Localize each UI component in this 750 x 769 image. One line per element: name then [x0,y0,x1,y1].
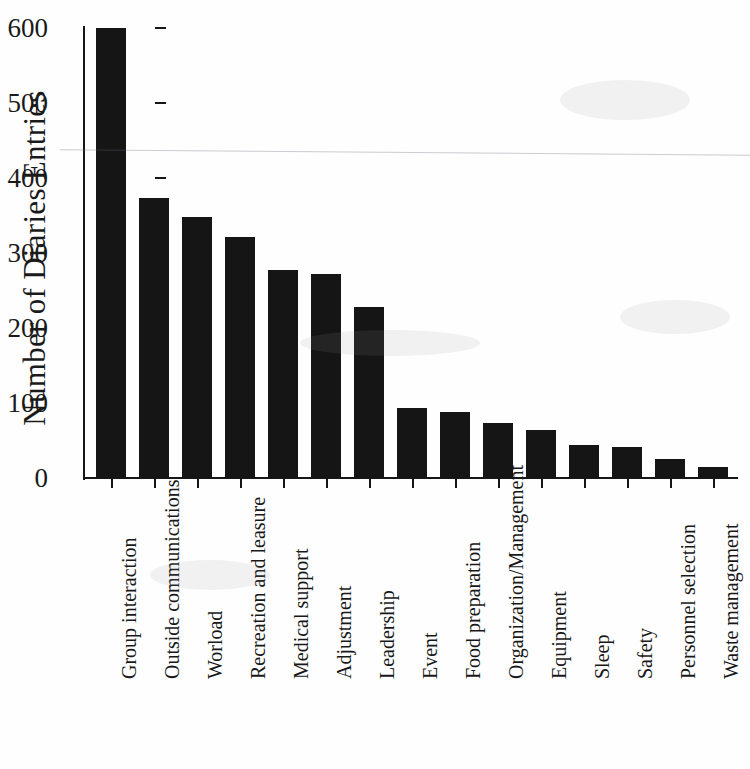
y-axis-tick-mark [155,27,166,29]
x-axis-tick-mark [240,479,242,488]
bar [139,198,169,479]
y-axis-tick-label: 600 [0,13,48,44]
bar [268,270,298,479]
bar [225,237,255,479]
y-axis-tick-label: 100 [0,388,48,419]
y-axis-tick-label: 0 [0,463,48,494]
bar [526,430,556,478]
x-axis-tick-mark [111,479,113,488]
bar [698,467,728,478]
x-axis-tick-mark [670,479,672,488]
x-axis-tick-label: Food preparation [462,542,485,679]
plot-area: 0100200300400500600 [83,28,736,478]
x-axis-tick-label: Recreation and leasure [247,497,270,679]
y-axis-tick-mark [155,177,166,179]
bar [354,307,384,478]
y-axis-tick-label: 400 [0,163,48,194]
x-axis-tick-mark [154,479,156,488]
bar [569,445,599,478]
x-axis-tick-label: Leadership [376,590,399,679]
x-axis-tick-mark [197,479,199,488]
bar [96,28,126,478]
bar [311,274,341,478]
bar [655,459,685,478]
x-axis-tick-mark [713,479,715,488]
y-axis-tick-label: 200 [0,313,48,344]
bar [440,412,470,478]
x-axis-tick-label: Equipment [548,591,571,679]
bar [182,217,212,478]
x-axis-tick-label: Group interaction [118,537,141,679]
x-axis-tick-label: Event [419,632,442,679]
bar [397,408,427,478]
x-axis-tick-label: Medical support [290,548,313,679]
x-axis-tick-label: Sleep [591,635,614,679]
x-axis-tick-mark [369,479,371,488]
x-axis-tick-label: Waste management [720,523,743,679]
x-axis-tick-mark [455,479,457,488]
x-axis-tick-mark [283,479,285,488]
bar [612,447,642,478]
y-axis-tick-label: 300 [0,238,48,269]
x-axis-tick-mark [326,479,328,488]
x-axis-tick-label: Personnel selection [677,524,700,679]
x-axis-tick-label: Outside communications [161,480,184,679]
y-axis-tick-mark [155,102,166,104]
x-axis-tick-label: Adjustment [333,586,356,679]
x-axis-tick-mark [498,479,500,488]
x-axis-tick-label: Safety [634,628,657,679]
x-axis-tick-mark [412,479,414,488]
bar-chart-figure: Number of Diaries Entries 01002003004005… [0,0,750,769]
x-axis-tick-mark [627,479,629,488]
x-axis-tick-label: Worload [204,611,227,679]
x-axis-tick-mark [541,479,543,488]
x-axis-tick-mark [584,479,586,488]
y-axis-tick-label: 500 [0,88,48,119]
x-axis-tick-label: Organization/Management [505,465,528,679]
